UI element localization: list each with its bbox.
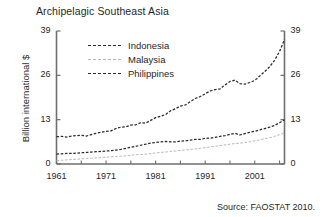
chart-figure: Archipelagic Southeast Asia Billion inte… [0, 0, 324, 217]
series-line-indonesia [57, 40, 285, 138]
x-tick-label: 1981 [139, 171, 173, 181]
y-tick-label-right: 0 [291, 158, 313, 168]
x-tick-label: 1991 [188, 171, 222, 181]
y-tick-label-left: 39 [29, 25, 51, 35]
series-line-philippines [57, 120, 285, 154]
series-line-malaysia [57, 133, 285, 161]
y-tick-label-right: 39 [291, 25, 313, 35]
x-tick-label: 1961 [40, 171, 74, 181]
x-tick-label: 2001 [238, 171, 272, 181]
y-tick-label-left: 0 [29, 158, 51, 168]
y-tick-label-right: 26 [291, 69, 313, 79]
x-tick-label: 1971 [89, 171, 123, 181]
y-tick-label-left: 26 [29, 69, 51, 79]
y-tick-label-left: 13 [29, 114, 51, 124]
y-tick-label-right: 13 [291, 114, 313, 124]
